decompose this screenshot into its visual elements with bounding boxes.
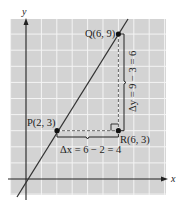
y-axis-label: y	[21, 6, 27, 17]
point-q	[116, 31, 121, 36]
point-p	[54, 128, 59, 133]
delta-y-label: Δy = 9 − 3 = 6	[127, 51, 138, 112]
point-q-label: Q(6, 9)	[85, 28, 116, 40]
point-p-label: P(2, 3)	[27, 117, 56, 129]
coordinate-plane: y x P(2, 3) Q(6, 9) R(6, 3) Δx = 6 − 2 =…	[0, 0, 182, 204]
x-axis-label: x	[170, 173, 176, 184]
point-r	[116, 128, 121, 133]
point-r-label: R(6, 3)	[120, 134, 150, 146]
delta-x-label: Δx = 6 − 2 = 4	[60, 144, 122, 155]
